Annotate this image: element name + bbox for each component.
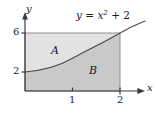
y-tick-label-6: 6 xyxy=(13,27,19,37)
equation-lhs: y xyxy=(76,9,82,21)
x-tick-label-1: 1 xyxy=(69,95,75,105)
curve-equation-label: y = x2 + 2 xyxy=(76,10,130,21)
region-label-b: B xyxy=(89,65,97,76)
y-axis-label: y xyxy=(26,4,32,14)
x-axis-arrowhead xyxy=(137,88,145,94)
y-tick-label-2: 2 xyxy=(13,66,19,76)
equation-exponent: 2 xyxy=(103,9,107,17)
x-tick-label-2: 2 xyxy=(117,95,123,105)
equation-equals: = xyxy=(85,9,94,21)
region-label-a: A xyxy=(51,45,59,56)
x-axis-label: x xyxy=(147,83,153,93)
equation-rest: + 2 xyxy=(111,9,130,21)
graph-figure: A B y x 6 2 1 2 y = x2 + 2 xyxy=(0,0,157,123)
